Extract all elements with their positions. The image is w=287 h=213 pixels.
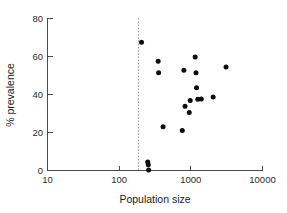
data-point (199, 97, 204, 102)
axis-lines (48, 18, 264, 171)
x-axis-tick-labels: 10 100 1000 10000 (42, 174, 276, 185)
y-tick-label-80: 80 (32, 13, 43, 24)
data-point (146, 162, 151, 167)
data-point (156, 70, 161, 75)
x-tick-label-100: 100 (111, 174, 127, 185)
data-point (193, 54, 198, 59)
data-point (224, 64, 229, 69)
data-point (181, 68, 186, 73)
data-point (161, 124, 166, 129)
data-point (156, 59, 161, 64)
y-tick-label-40: 40 (32, 89, 43, 100)
chart-screenshot: 80 60 40 20 0 10 100 1000 10000 Populati… (0, 0, 287, 213)
y-tick-label-20: 20 (32, 127, 43, 138)
data-point (187, 110, 192, 115)
x-tick-label-1000: 1000 (180, 174, 201, 185)
data-point (193, 70, 198, 75)
data-points-group (139, 40, 229, 173)
data-point (146, 168, 151, 173)
data-point (180, 128, 185, 133)
x-tick-label-10000: 10000 (249, 174, 275, 185)
data-point (139, 40, 144, 45)
x-axis-title: Population size (119, 193, 190, 205)
y-tick-label-60: 60 (32, 51, 43, 62)
data-point (188, 98, 193, 103)
x-tick-label-10: 10 (42, 174, 53, 185)
scatter-plot: 80 60 40 20 0 10 100 1000 10000 Populati… (0, 0, 287, 213)
data-point (194, 85, 199, 90)
data-point (183, 104, 188, 109)
data-point (211, 94, 216, 99)
y-axis-ticks (48, 19, 53, 171)
x-axis-ticks (48, 166, 263, 171)
y-axis-title: % prevalence (4, 63, 16, 127)
y-axis-tick-labels: 80 60 40 20 0 (32, 13, 43, 176)
